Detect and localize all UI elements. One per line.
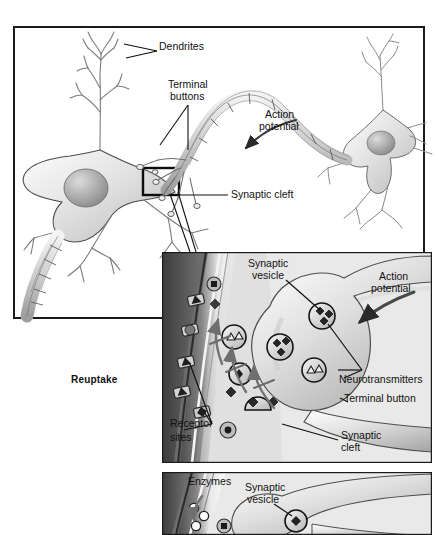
figure-canvas: Dendrites Terminal buttons Action potent… — [0, 0, 438, 535]
label-synaptic-cleft-mid-line2: cleft — [341, 442, 360, 454]
label-action-potential-overview-line2: potential — [259, 121, 299, 133]
label-receptor-sites-line1: Receptor — [170, 418, 213, 430]
label-synaptic-vesicle-mid-line1: Synaptic — [248, 258, 288, 270]
label-synaptic-cleft-overview: Synaptic cleft — [231, 189, 293, 201]
label-action-potential-mid-line1: Action — [379, 271, 408, 283]
label-receptor-sites-line2: sites — [170, 432, 192, 444]
label-dendrites: Dendrites — [159, 41, 204, 53]
label-synaptic-vesicle-bottom-line2: vesicle — [247, 494, 279, 506]
right-neuron-nucleus — [367, 131, 395, 155]
label-terminal-button: Terminal button — [344, 393, 416, 405]
label-synaptic-vesicle-bottom-line1: Synaptic — [245, 482, 285, 494]
illustration-layer — [0, 0, 438, 535]
label-synaptic-cleft-mid-line1: Synaptic — [341, 430, 381, 442]
left-neuron-nucleus — [64, 169, 108, 207]
vesicle — [267, 334, 293, 360]
vesicle — [302, 358, 326, 382]
label-neurotransmitters: Neurotransmitters — [339, 374, 422, 386]
label-enzymes: Enzymes — [188, 476, 231, 488]
vesicle — [309, 303, 335, 329]
label-action-potential-mid-line2: potential — [371, 283, 411, 295]
label-terminal-buttons-line1: Terminal — [168, 79, 208, 91]
label-reuptake: Reuptake — [71, 374, 118, 386]
label-terminal-buttons-line2: buttons — [170, 91, 204, 103]
label-synaptic-vesicle-mid-line2: vesicle — [252, 270, 284, 282]
label-action-potential-overview-line1: Action — [265, 109, 294, 121]
